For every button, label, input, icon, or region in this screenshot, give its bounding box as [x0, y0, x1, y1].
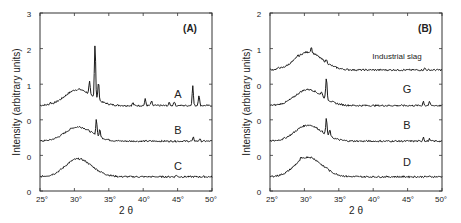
x-tick-label: 50° — [205, 195, 217, 204]
plot-frame-a — [40, 13, 212, 191]
panel-b: (B) Industrial slag G B D 2 1 0 0 0 0 25… — [241, 10, 447, 216]
y-tick-label: 2 — [27, 46, 32, 55]
curves-b — [270, 48, 442, 178]
y-tick-label: 0 — [27, 188, 32, 197]
panel-label-b: (B) — [418, 23, 432, 34]
x-axis-label-b: 2 θ — [349, 205, 363, 216]
y-axis-label-b: Intensity (arbitrary units) — [241, 48, 252, 155]
y-axis-label-a: Intensity (arbitrary units) — [11, 48, 22, 155]
x-tick-label: 35° — [104, 195, 116, 204]
x-tick-label: 25° — [266, 195, 278, 204]
x-tick-label: 35° — [334, 195, 346, 204]
y-tick-label: 0 — [257, 82, 262, 91]
x-tick-label: 30° — [300, 195, 312, 204]
y-tick-label: 3 — [27, 10, 32, 19]
curve-label-industrial-slag: Industrial slag — [372, 52, 421, 61]
ticks-a — [40, 13, 212, 191]
x-tick-label: 50° — [435, 195, 447, 204]
x-tick-label: 25° — [36, 195, 48, 204]
xrd-curve-a — [40, 46, 212, 107]
curve-label-a: A — [174, 88, 182, 100]
curve-label-d: D — [403, 156, 411, 168]
x-tick-label: 40° — [368, 195, 380, 204]
y-tick-label: 0 — [27, 153, 32, 162]
y-tick-label: 1 — [257, 46, 262, 55]
xrd-curve-d — [270, 157, 442, 178]
x-tick-label: 45° — [402, 195, 414, 204]
xrd-curve-g — [270, 79, 442, 107]
y-tick-label: 0 — [27, 117, 32, 126]
panel-a: (A) A B C 3 2 1 0 0 0 25° 30° 35° 40° 45… — [11, 10, 217, 216]
y-tick-label: 0 — [257, 117, 262, 126]
curve-label-b: B — [403, 119, 410, 131]
x-axis-label-a: 2 θ — [119, 205, 133, 216]
curve-label-g: G — [403, 83, 412, 95]
y-tick-label: 2 — [257, 10, 262, 19]
y-tick-label: 1 — [27, 82, 32, 91]
xrd-curve-c — [40, 158, 212, 178]
panel-label-a: (A) — [183, 23, 197, 34]
x-tick-label: 45° — [172, 195, 184, 204]
y-tick-label: 0 — [257, 153, 262, 162]
x-tick-label: 30° — [70, 195, 82, 204]
curves-a — [40, 46, 212, 178]
figure: (A) A B C 3 2 1 0 0 0 25° 30° 35° 40° 45… — [0, 0, 461, 223]
x-tick-label: 40° — [138, 195, 150, 204]
curve-label-b: B — [174, 124, 181, 136]
y-tick-label: 0 — [257, 188, 262, 197]
xrd-curve-b — [40, 120, 212, 143]
curve-label-c: C — [174, 160, 182, 172]
xrd-curve-b — [270, 119, 442, 143]
